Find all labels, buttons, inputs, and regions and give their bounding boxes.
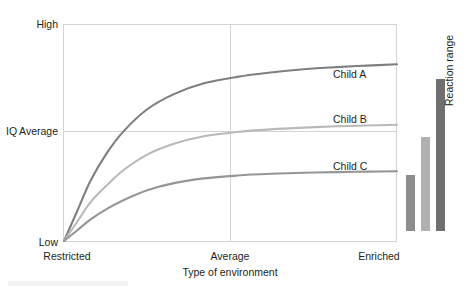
reaction-range-chart: High Average Low IQ Restricted Average E… [0,0,474,289]
y-tick-low: Low [0,236,58,248]
series-label-child-b: Child B [333,113,367,125]
series-curve-child-a [64,64,397,241]
y-tick-high: High [0,18,58,30]
series-label-child-c: Child C [333,160,367,172]
x-tick-enriched: Enriched [340,250,418,262]
series-curve-child-c [64,171,397,241]
series-label-child-a: Child A [333,68,366,80]
reaction-range-bar-child-c [406,175,415,232]
reaction-range-bar-child-b [421,137,430,231]
x-tick-restricted: Restricted [28,250,106,262]
x-axis-title: Type of environment [135,266,325,278]
reaction-range-title: Reaction range [443,0,455,106]
y-axis-title: IQ [6,125,17,137]
curves-layer [0,0,474,289]
caption-remnant [8,281,128,286]
x-tick-average: Average [191,250,269,262]
